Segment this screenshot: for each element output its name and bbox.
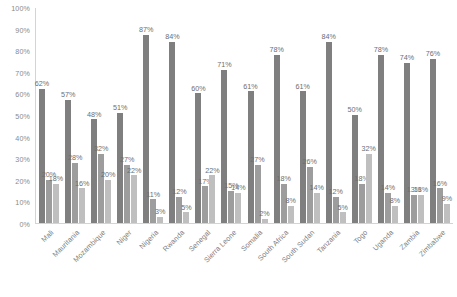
x-axis-category: Mozambique [88, 226, 114, 296]
x-axis-category: Zambia [402, 226, 428, 296]
y-axis-tick: 30% [15, 155, 30, 164]
x-axis-category: Rwanda [167, 226, 193, 296]
y-axis-tick: 80% [15, 47, 30, 56]
x-axis-category: Sierra Leone [219, 226, 245, 296]
y-axis-tick: 100% [11, 4, 30, 13]
bar[interactable] [307, 167, 313, 223]
bar-slot: 18% [359, 8, 365, 223]
bar-slot: 78% [274, 8, 280, 223]
bar-slot: 12% [176, 8, 182, 223]
bar[interactable] [98, 154, 104, 223]
bar[interactable] [209, 175, 215, 223]
bar[interactable] [131, 175, 137, 223]
bar-value-label: 22% [127, 167, 141, 174]
bar[interactable] [262, 219, 268, 223]
bar[interactable] [314, 193, 320, 223]
bar[interactable] [79, 188, 85, 223]
bar-group: 62%20%18% [36, 8, 62, 223]
x-axis-category-label: Niger [115, 228, 134, 247]
y-axis-tick: 40% [15, 133, 30, 142]
bar[interactable] [378, 55, 384, 223]
bar-group: 61%27%2% [245, 8, 271, 223]
bar[interactable] [352, 115, 358, 223]
x-axis-category: Zimbabwe [428, 226, 454, 296]
x-axis-category: Mali [36, 226, 62, 296]
bar[interactable] [72, 163, 78, 223]
bar-slot: 17% [202, 8, 208, 223]
bar-group: 71%15%14% [218, 8, 244, 223]
bar[interactable] [39, 89, 45, 223]
bar[interactable] [418, 195, 424, 223]
x-axis-category: Uganda [376, 226, 402, 296]
x-axis-category-label: Togo [351, 228, 369, 246]
bar-value-label: 14% [231, 184, 245, 191]
bar-slot: 14% [385, 8, 391, 223]
bar-group: 84%12%5% [323, 8, 349, 223]
bar-slot: 32% [366, 8, 372, 223]
bar-value-label: 2% [259, 210, 269, 217]
y-axis-tick: 0% [19, 220, 30, 229]
bar-group: 87%11%3% [140, 8, 166, 223]
bar[interactable] [411, 195, 417, 223]
y-axis-tick: 10% [15, 198, 30, 207]
x-axis-line [35, 223, 453, 224]
bar-slot: 27% [124, 8, 130, 223]
bar[interactable] [117, 113, 123, 223]
bar-value-label: 14% [309, 184, 323, 191]
bar[interactable] [404, 63, 410, 223]
bar[interactable] [202, 186, 208, 223]
bar-value-label: 8% [390, 197, 400, 204]
x-axis-category-label: Mali [39, 228, 55, 244]
bar-slot: 62% [39, 8, 45, 223]
bar[interactable] [444, 204, 450, 223]
bar-slot: 18% [281, 8, 287, 223]
bar[interactable] [359, 184, 365, 223]
bar[interactable] [46, 180, 52, 223]
bar[interactable] [91, 119, 97, 223]
bar[interactable] [183, 212, 189, 223]
y-axis-tick: 50% [15, 112, 30, 121]
bar[interactable] [366, 154, 372, 223]
x-axis-category-label: Nigeria [137, 228, 160, 251]
x-axis-category: Niger [114, 226, 140, 296]
bar-slot: 14% [235, 8, 241, 223]
bar-slot: 22% [131, 8, 137, 223]
bar[interactable] [235, 193, 241, 223]
bar-group: 76%16%9% [427, 8, 453, 223]
bar[interactable] [157, 217, 163, 223]
bar-slot: 3% [157, 8, 163, 223]
bar-group: 51%27%22% [114, 8, 140, 223]
bar-group: 78%18%8% [271, 8, 297, 223]
bar[interactable] [195, 93, 201, 223]
bar[interactable] [221, 70, 227, 223]
x-axis-category-label: Zambia [397, 228, 421, 252]
bar[interactable] [340, 212, 346, 223]
bar-slot: 48% [91, 8, 97, 223]
bar[interactable] [53, 184, 59, 223]
bar-slot: 16% [79, 8, 85, 223]
bar-slot: 61% [300, 8, 306, 223]
bar[interactable] [228, 191, 234, 223]
bar[interactable] [105, 180, 111, 223]
bar-slot: 12% [333, 8, 339, 223]
bar-slot: 71% [221, 8, 227, 223]
bar-value-label: 22% [205, 167, 219, 174]
bar[interactable] [392, 206, 398, 223]
y-axis-tick: 90% [15, 25, 30, 34]
bar-slot: 51% [117, 8, 123, 223]
bar-group: 60%17%22% [192, 8, 218, 223]
bar-value-label: 13% [414, 186, 428, 193]
x-axis-labels: MaliMauritaniaMozambiqueNigerNigeriaRwan… [36, 226, 454, 296]
bar[interactable] [430, 59, 436, 223]
bar-group: 61%26%14% [297, 8, 323, 223]
bar-slot: 60% [195, 8, 201, 223]
bar-group: 50%18%32% [349, 8, 375, 223]
bar-slot: 11% [150, 8, 156, 223]
bar-slot: 14% [314, 8, 320, 223]
bar-slot: 16% [437, 8, 443, 223]
bar[interactable] [274, 55, 280, 223]
bar-group: 84%12%5% [166, 8, 192, 223]
bar-slot: 8% [392, 8, 398, 223]
bar[interactable] [288, 206, 294, 223]
bar-slot: 5% [183, 8, 189, 223]
